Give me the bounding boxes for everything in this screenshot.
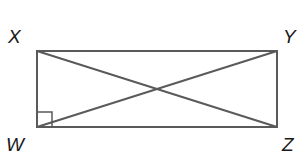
vertex-label-y: Y [283, 27, 296, 46]
vertex-label-z: Z [282, 135, 294, 154]
vertex-label-w: W [6, 135, 24, 154]
vertex-label-x: X [8, 27, 21, 46]
rectangle-diagram: X Y W Z [0, 0, 306, 168]
diagram-canvas [0, 0, 306, 168]
